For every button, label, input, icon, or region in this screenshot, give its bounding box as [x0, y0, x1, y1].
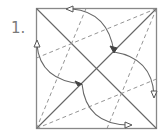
dashed-tr-left [37, 9, 157, 59]
dashed-tr-bottom [107, 9, 157, 129]
dashed-bl-right [37, 79, 157, 129]
arrow-center-to-bottom [82, 84, 128, 125]
hollow-arrowhead-top [66, 6, 73, 12]
hollow-arrowhead-left [34, 40, 40, 47]
dashed-bl-top [37, 9, 87, 129]
crease-diagram [0, 0, 167, 136]
arrow-left-to-center [37, 45, 82, 84]
filled-arrowhead-lower [75, 81, 82, 86]
arrow-top-to-center [72, 9, 114, 52]
hollow-arrowhead-bottom [125, 122, 132, 128]
